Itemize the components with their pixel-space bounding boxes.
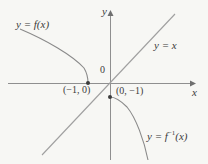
origin-label: 0	[100, 65, 105, 75]
y-axis-arrowhead	[108, 10, 114, 16]
x-axis-label: x	[192, 87, 197, 98]
label-inverse-suffix: (x)	[175, 130, 187, 142]
label-function-f-inverse: y = f−1(x)	[147, 131, 188, 142]
curve-f	[20, 29, 88, 83]
y-axis-label: y	[102, 6, 107, 17]
math-graph-figure: y = f(x) y = x y = f−1(x) (−1, 0) (0, −1…	[0, 0, 208, 164]
label-identity-line: y = x	[154, 40, 177, 51]
label-inverse-prefix: y = f	[147, 130, 168, 142]
point-y-intercept	[108, 95, 112, 99]
label-function-f: y = f(x)	[16, 19, 49, 30]
point-label-y-intercept: (0, −1)	[116, 86, 143, 96]
curve-f-inverse	[110, 97, 148, 160]
point-label-x-intercept: (−1, 0)	[63, 85, 90, 95]
